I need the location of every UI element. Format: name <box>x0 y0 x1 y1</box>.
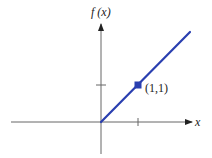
point-marker <box>135 82 142 89</box>
y-axis-label: f (x) <box>91 5 111 19</box>
point-label: (1,1) <box>145 81 168 95</box>
function-graph: f (x) x (1,1) <box>0 0 212 158</box>
function-line <box>101 32 190 122</box>
x-axis-label: x <box>194 115 201 129</box>
